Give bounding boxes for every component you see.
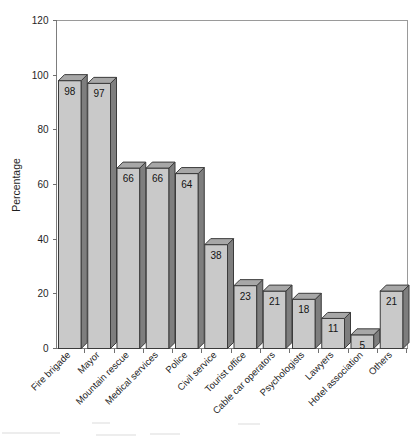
- bar-value-label: 38: [211, 250, 223, 261]
- y-axis-tick-label: 80: [37, 124, 49, 135]
- x-axis-category-label: Medical services: [103, 349, 161, 407]
- y-axis-tick-group: 020406080100120: [32, 15, 57, 354]
- bar-value-label: 5: [360, 340, 366, 351]
- y-axis-tick-label: 20: [37, 288, 49, 299]
- y-axis-tick-label: 100: [32, 70, 49, 81]
- bar-front-face: [146, 168, 169, 348]
- bar-series-group: [59, 75, 410, 349]
- x-axis-category-label: Others: [366, 349, 394, 377]
- y-axis-tick-label: 120: [32, 15, 49, 26]
- bar-value-label: 66: [123, 173, 135, 184]
- bar-side-face: [315, 293, 321, 348]
- x-axis-category-label: Hotel association: [306, 349, 365, 408]
- bar-chart-figure: 020406080100120 98976666643823211811521 …: [0, 0, 419, 443]
- bar-side-face: [403, 285, 409, 348]
- bar-value-label: 66: [152, 173, 164, 184]
- bar-front-face: [59, 81, 82, 349]
- bar-front-face: [176, 174, 199, 349]
- bar-side-face: [257, 280, 263, 349]
- y-axis-title: Percentage: [10, 158, 22, 212]
- x-axis-category-label: Fire brigade: [29, 349, 73, 393]
- bar-side-face: [228, 239, 234, 349]
- x-axis-category-label: Police: [163, 349, 189, 375]
- bar-value-label: 21: [386, 296, 398, 307]
- bar-side-face: [169, 162, 175, 348]
- scan-artifact-group: [2, 422, 260, 436]
- bar-side-face: [140, 162, 146, 348]
- bar-value-label: 98: [64, 86, 76, 97]
- bar-value-label: 97: [94, 88, 106, 99]
- chart-canvas: 020406080100120 98976666643823211811521 …: [0, 0, 419, 443]
- bar-side-face: [286, 285, 292, 348]
- bar-side-face: [198, 168, 204, 349]
- x-axis-category-label: Mayor: [75, 349, 101, 375]
- category-label-group: Fire brigadeMayorMountain rescueMedical …: [29, 349, 395, 416]
- bar-value-label: 21: [269, 296, 281, 307]
- bar-value-label: 23: [240, 291, 252, 302]
- bar-front-face: [117, 168, 140, 348]
- bar-value-label: 11: [328, 323, 339, 334]
- bar-side-face: [111, 77, 117, 348]
- bar-front-face: [88, 83, 111, 348]
- y-axis-tick-label: 40: [37, 234, 49, 245]
- bar-value-label: 64: [181, 179, 193, 190]
- y-axis-tick-label: 0: [43, 343, 49, 354]
- y-axis-tick-label: 60: [37, 179, 49, 190]
- bar-side-face: [81, 75, 87, 349]
- bar-value-label: 18: [298, 304, 310, 315]
